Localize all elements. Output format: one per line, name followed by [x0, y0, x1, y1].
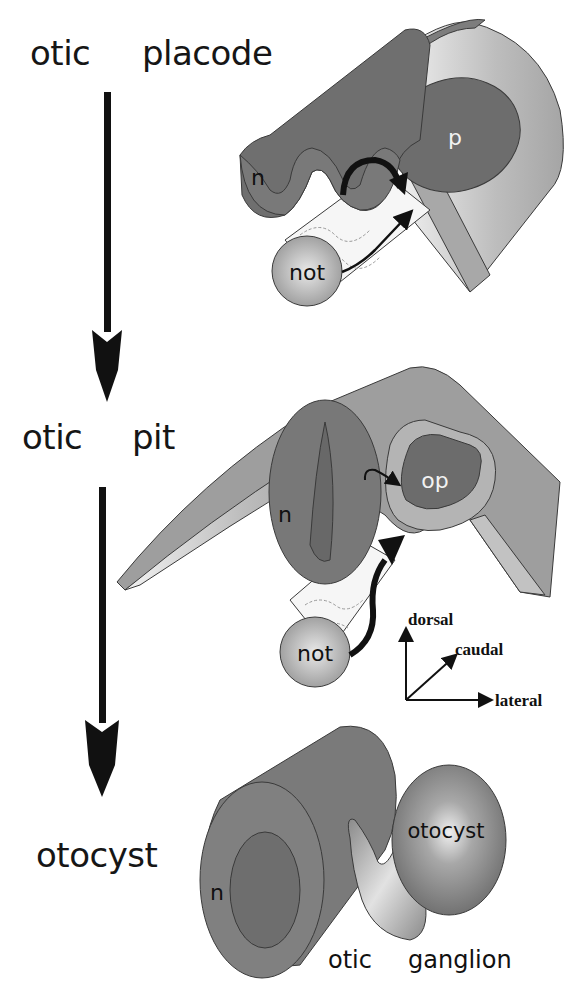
arrowhead-icon [92, 330, 122, 402]
caudal-axis-arrow [406, 656, 455, 700]
notochord-label: not [297, 641, 333, 666]
notochord-label: not [289, 260, 325, 285]
otic-ganglion-label-1: otic [328, 946, 372, 974]
neural-tube-label: n [210, 880, 224, 905]
neural-tube-label: n [278, 502, 292, 527]
progression-arrow-1 [92, 92, 122, 402]
lateral-label: lateral [495, 691, 542, 710]
dorsal-label: dorsal [408, 610, 454, 629]
panel-otocyst: n otocyst otic ganglion [200, 726, 512, 978]
orientation-axes: dorsal caudal lateral [406, 610, 542, 710]
otic-pit-label: op [421, 468, 448, 493]
caudal-label: caudal [455, 640, 503, 659]
placode-label: p [448, 125, 462, 150]
diagram-canvas: p not n n op not [0, 0, 588, 1001]
arrowhead-icon [85, 720, 119, 797]
neural-tube-label: n [251, 165, 265, 190]
panel-otic-placode: p not n [240, 19, 563, 306]
panel-otic-pit: n op not [117, 367, 560, 687]
otic-ganglion-label-2: ganglion [408, 946, 512, 974]
neural-canal [230, 832, 300, 948]
progression-arrow-2 [85, 487, 119, 797]
otocyst-label: otocyst [407, 819, 484, 843]
